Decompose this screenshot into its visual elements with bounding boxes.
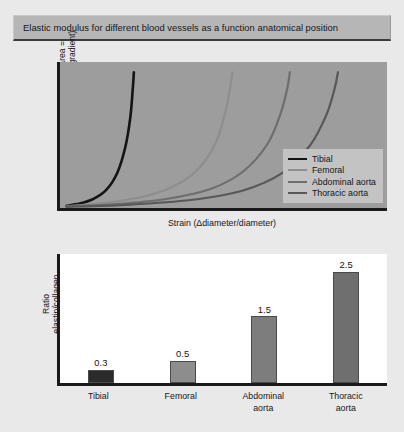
elastin-collagen-ratio-chart: Ratio elastin/collagen 0.30.51.52.5 Tibi…	[13, 252, 391, 420]
x-tick-label: Thoracicaorta	[305, 391, 388, 414]
legend-item-tibial: Tibial	[288, 153, 376, 165]
legend-label-tibial: Tibial	[312, 154, 333, 164]
legend-item-femoral: Femoral	[288, 165, 376, 177]
ratio-chart-x-tick-labels: TibialFemoralAbdominalaortaThoracicaorta	[57, 391, 387, 414]
bar-rect	[88, 370, 114, 383]
legend-label-thoracic-aorta: Thoracic aorta	[312, 188, 368, 198]
x-tick-label-line: aorta	[222, 403, 305, 415]
ratio-chart-bars: 0.30.51.52.5	[60, 254, 387, 383]
x-tick-label-line: Thoracic	[305, 391, 388, 403]
curve-femoral	[67, 72, 233, 206]
bar-value-label: 0.3	[94, 358, 107, 368]
curve-tibial	[67, 72, 134, 206]
legend-swatch-tibial	[288, 158, 307, 160]
stress-strain-chart: Stress (force/unit area = transmural pre…	[13, 56, 391, 238]
legend-item-thoracic-aorta: Thoracic aorta	[288, 188, 376, 200]
ratio-y-axis-label-line1: Ratio	[41, 294, 52, 314]
figure-title-band: Elastic modulus for different blood vess…	[13, 15, 391, 41]
stress-chart-legend: Tibial Femoral Abdominal aorta Thoracic …	[283, 149, 383, 203]
stress-chart-plot-area: Tibial Femoral Abdominal aorta Thoracic …	[57, 62, 387, 211]
bar-value-label: 2.5	[340, 260, 353, 270]
legend-swatch-thoracic-aorta	[288, 192, 307, 194]
x-tick-label: Femoral	[140, 391, 223, 414]
bar-group: 2.5	[305, 254, 387, 383]
ratio-chart-plot-area: 0.30.51.52.5	[57, 254, 387, 386]
x-tick-label-line: Tibial	[57, 391, 140, 403]
bar-group: 0.5	[142, 254, 224, 383]
stress-chart-x-axis-label: Strain (Δdiameter/diameter)	[57, 218, 387, 228]
bar-rect	[170, 361, 196, 383]
bar-group: 0.3	[60, 254, 142, 383]
figure-panel: Elastic modulus for different blood vess…	[0, 0, 404, 432]
x-tick-label: Tibial	[57, 391, 140, 414]
x-tick-label: Abdominalaorta	[222, 391, 305, 414]
legend-label-abdominal-aorta: Abdominal aorta	[312, 177, 376, 187]
legend-item-abdominal-aorta: Abdominal aorta	[288, 176, 376, 188]
legend-swatch-abdominal-aorta	[288, 181, 307, 183]
legend-swatch-femoral	[288, 169, 307, 171]
x-tick-label-line: aorta	[305, 403, 388, 415]
x-tick-label-line: Femoral	[140, 391, 223, 403]
bar-rect	[251, 316, 277, 383]
bar-value-label: 1.5	[258, 305, 271, 315]
bar-rect	[333, 272, 359, 383]
bar-value-label: 0.5	[176, 349, 189, 359]
bar-group: 1.5	[224, 254, 306, 383]
x-tick-label-line: Abdominal	[222, 391, 305, 403]
legend-label-femoral: Femoral	[312, 165, 344, 175]
figure-title: Elastic modulus for different blood vess…	[23, 22, 338, 33]
